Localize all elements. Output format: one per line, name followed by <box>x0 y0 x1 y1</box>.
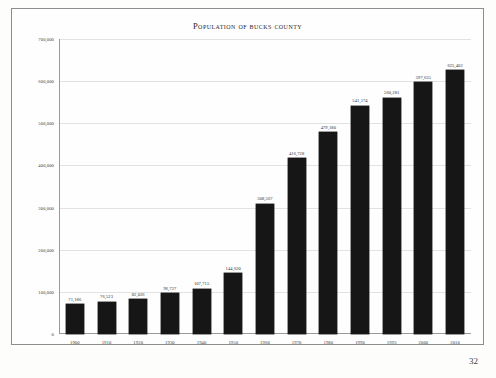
x-axis-tick-label: 1920 <box>133 340 143 345</box>
y-axis-tick-label: 100,000 <box>38 289 54 294</box>
bar-value-label: 107,715 <box>194 281 209 286</box>
x-axis-tick-label: 2010 <box>450 340 460 345</box>
y-axis-tick-label: 700,000 <box>38 37 54 42</box>
bar-slot: 541,1741990 <box>344 39 376 334</box>
y-axis-tick-label: 600,000 <box>38 79 54 84</box>
page-number: 32 <box>469 356 478 366</box>
scanned-page: Population of Bucks County 700,000600,00… <box>0 0 496 378</box>
bar-value-label: 82,026 <box>132 292 145 297</box>
x-axis-tick-label: 1910 <box>102 340 112 345</box>
bar[interactable] <box>351 106 369 334</box>
x-axis-tick-label: 1970 <box>292 340 302 345</box>
bar[interactable] <box>224 273 242 334</box>
x-axis-tick-label: 1993 <box>387 340 397 345</box>
bar-value-label: 96,727 <box>163 286 176 291</box>
y-axis-tick-label: 300,000 <box>38 205 54 210</box>
bar-slot: 597,6352000 <box>408 39 440 334</box>
x-axis-tick-label: 1950 <box>228 340 238 345</box>
y-axis-tick-label: 500,000 <box>38 121 54 126</box>
y-axis-tick-label: 200,000 <box>38 247 54 252</box>
x-axis-tick-label: 1900 <box>70 340 80 345</box>
x-axis-tick-label: 1940 <box>197 340 207 345</box>
x-axis-tick-label: 2000 <box>419 340 429 345</box>
bar-slot: 416,7281970 <box>281 39 313 334</box>
x-axis-tick-label: 1980 <box>323 340 333 345</box>
bar-value-label: 597,635 <box>416 75 431 80</box>
bar[interactable] <box>129 299 147 334</box>
bar-slot: 625,4022010 <box>439 39 471 334</box>
bar-value-label: 71,186 <box>68 297 81 302</box>
bar-slot: 82,0261920 <box>122 39 154 334</box>
bar-value-label: 479,180 <box>321 125 336 130</box>
bar-slot: 107,7151940 <box>186 39 218 334</box>
x-axis-tick-label: 1960 <box>260 340 270 345</box>
plot-area: 700,000600,000500,000400,000300,000200,0… <box>59 39 471 334</box>
figure-frame: Population of Bucks County 700,000600,00… <box>11 8 484 345</box>
x-axis-tick-label: 1990 <box>355 340 365 345</box>
y-axis-tick-label: 0 <box>52 332 54 337</box>
bar[interactable] <box>319 132 337 334</box>
bar-value-label: 144,620 <box>226 266 241 271</box>
bar-slot: 308,5671960 <box>249 39 281 334</box>
bar[interactable] <box>256 204 274 334</box>
bar-slot: 479,1801980 <box>313 39 345 334</box>
y-axis-tick-label: 400,000 <box>38 163 54 168</box>
bar-slot: 71,1861900 <box>59 39 91 334</box>
bar-value-label: 416,728 <box>289 151 304 156</box>
bar[interactable] <box>446 70 464 334</box>
bar-value-label: 560,281 <box>384 90 399 95</box>
bar[interactable] <box>66 304 84 334</box>
bar-value-label: 76,523 <box>100 294 113 299</box>
bar[interactable] <box>193 289 211 334</box>
bar-series: 71,186190076,523191082,026192096,7271930… <box>59 39 471 334</box>
bar-value-label: 308,567 <box>257 196 272 201</box>
x-axis-tick-label: 1930 <box>165 340 175 345</box>
bar[interactable] <box>414 82 432 334</box>
bar[interactable] <box>288 158 306 334</box>
bar-slot: 560,2811993 <box>376 39 408 334</box>
bar-slot: 96,7271930 <box>154 39 186 334</box>
bar[interactable] <box>383 98 401 334</box>
chart-title: Population of Bucks County <box>12 21 483 31</box>
bar-value-label: 625,402 <box>447 63 462 68</box>
bar-value-label: 541,174 <box>352 98 367 103</box>
bar-slot: 144,6201950 <box>217 39 249 334</box>
bar[interactable] <box>161 293 179 334</box>
bar-slot: 76,5231910 <box>91 39 123 334</box>
bar[interactable] <box>98 302 116 334</box>
